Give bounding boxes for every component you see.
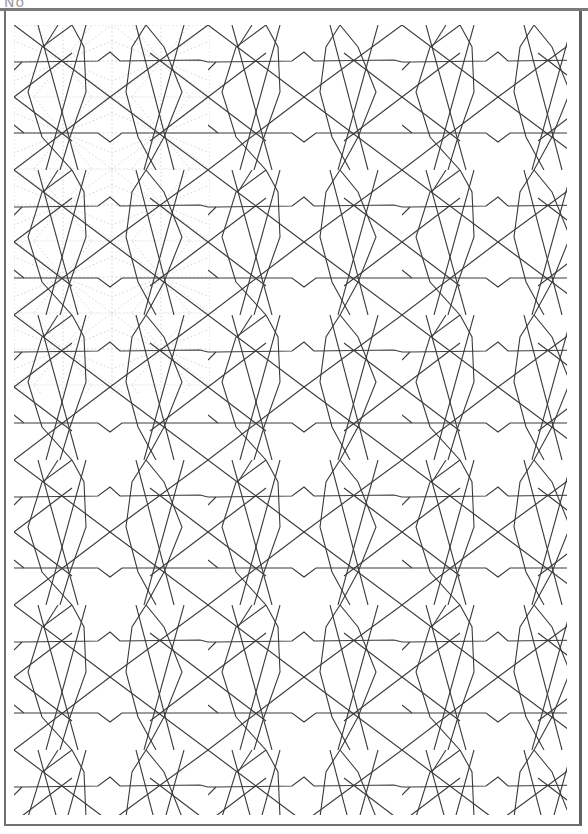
interlace-lines: [14, 25, 567, 815]
geometric-pattern: [0, 0, 588, 834]
